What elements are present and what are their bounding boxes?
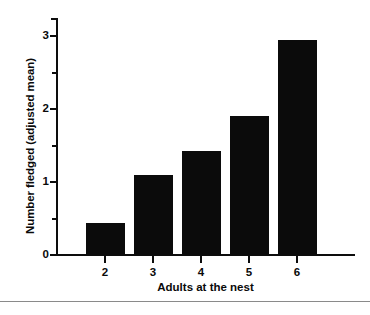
x-tick	[248, 256, 250, 263]
y-tick-label: 0	[23, 249, 49, 261]
x-tick-label: 4	[186, 267, 216, 279]
plot-area: 0123 23456	[56, 18, 355, 255]
x-tick	[152, 256, 154, 263]
bar-chart-figure: Number fledged (adjusted mean) 0123 2345…	[0, 0, 370, 315]
y-tick-label: 1	[23, 176, 49, 188]
y-tick-minor	[52, 72, 57, 74]
y-axis-line	[56, 18, 58, 256]
y-tick-major	[50, 254, 57, 256]
x-tick	[104, 256, 106, 263]
bar	[230, 116, 269, 255]
y-tick-major	[50, 181, 57, 183]
y-tick-label: 3	[23, 30, 49, 42]
x-axis-label: Adults at the nest	[56, 281, 355, 293]
y-axis-top-cap-tick	[51, 18, 57, 20]
y-tick-major	[50, 108, 57, 110]
y-axis-label: Number fledged (adjusted mean)	[24, 36, 36, 256]
bar	[278, 40, 317, 255]
x-tick	[296, 256, 298, 263]
y-tick-minor	[52, 218, 57, 220]
x-tick-label: 6	[282, 267, 312, 279]
bar	[86, 223, 125, 255]
x-tick-label: 3	[138, 267, 168, 279]
x-tick-label: 5	[234, 267, 264, 279]
y-tick-label: 2	[23, 103, 49, 115]
figure-bottom-rule	[0, 301, 370, 302]
x-tick	[200, 256, 202, 263]
bar	[134, 175, 173, 255]
y-tick-minor	[52, 35, 57, 37]
bar	[182, 151, 221, 255]
x-tick-label: 2	[90, 267, 120, 279]
y-tick-minor	[52, 145, 57, 147]
